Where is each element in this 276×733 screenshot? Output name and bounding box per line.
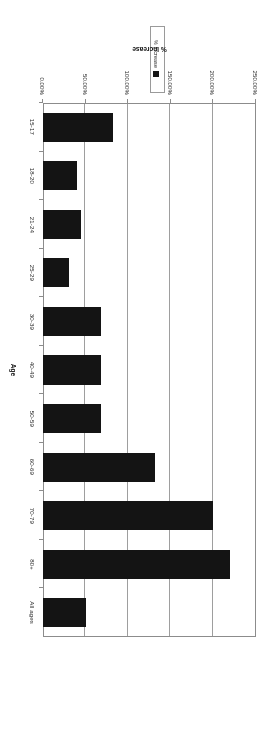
category-tick — [39, 248, 43, 249]
category-tick — [39, 345, 43, 346]
bar — [43, 550, 230, 579]
category-tick-label-text: 70-79 — [29, 507, 36, 523]
bar — [43, 404, 101, 433]
category-tick-label-text: 30-39 — [29, 313, 36, 329]
category-tick-label-text: 60-69 — [29, 459, 36, 475]
bar — [43, 355, 101, 384]
bar — [43, 210, 81, 239]
bar-series — [43, 103, 256, 637]
value-tick-label-text: 250.00% — [252, 71, 259, 95]
value-tick — [212, 99, 213, 103]
category-axis: Age All ages80+70-7960-6950-5940-4930-39… — [0, 103, 43, 637]
chart-figure: % Increase Age All ages80+70-7960-6950-5… — [0, 0, 276, 733]
category-tick — [39, 199, 43, 200]
bar — [43, 598, 86, 627]
value-tick-label-text: 50.00% — [82, 74, 89, 95]
bar — [43, 453, 155, 482]
category-tick-label-text: 15-17 — [29, 119, 36, 135]
category-tick — [39, 587, 43, 588]
bar — [43, 501, 213, 530]
value-tick — [170, 99, 171, 103]
bar — [43, 307, 101, 336]
category-tick-label-text: 25-29 — [29, 265, 36, 281]
category-tick-label-text: 18-20 — [29, 168, 36, 184]
bar — [43, 161, 77, 190]
value-axis: % Increase 250.00%200.00%150.00%100.00%5… — [43, 33, 256, 103]
value-tick-label-text: 100.00% — [124, 71, 131, 95]
value-tick-label-text: 200.00% — [209, 71, 216, 95]
value-tick-label-text: 0.00% — [39, 77, 46, 95]
category-tick — [39, 393, 43, 394]
category-axis-title: Age — [10, 364, 17, 376]
category-tick — [39, 296, 43, 297]
category-tick-label-text: All ages — [29, 601, 36, 624]
value-tick — [42, 99, 43, 103]
value-axis-title: % Increase — [43, 46, 256, 53]
value-tick-label-text: 150.00% — [167, 71, 174, 95]
value-tick — [85, 99, 86, 103]
category-tick — [39, 539, 43, 540]
value-tick — [255, 99, 256, 103]
category-tick-label-text: 40-49 — [29, 362, 36, 378]
category-tick — [39, 442, 43, 443]
category-tick-label-text: 80+ — [29, 559, 36, 570]
category-tick-label-text: 50-59 — [29, 410, 36, 426]
category-tick — [39, 151, 43, 152]
category-tick — [39, 490, 43, 491]
value-tick — [127, 99, 128, 103]
bar — [43, 258, 69, 287]
bar — [43, 113, 113, 142]
category-tick-label-text: 21-24 — [29, 216, 36, 232]
